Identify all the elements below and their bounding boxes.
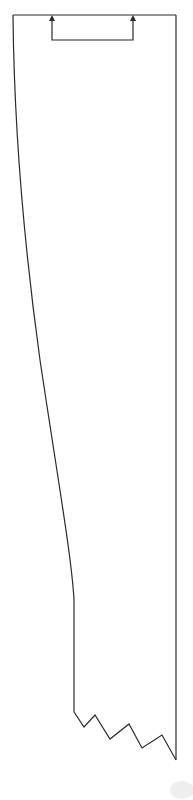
left-curved-edge <box>13 15 74 712</box>
diagram-canvas <box>0 0 193 800</box>
smudge-mark <box>170 781 193 799</box>
strip-outline <box>13 15 176 760</box>
bracket-line <box>52 20 133 40</box>
jagged-bottom-edge <box>74 712 176 760</box>
arrow-up-icon <box>49 15 55 21</box>
arrow-up-icon <box>130 15 136 21</box>
bracket-connector <box>49 15 136 40</box>
